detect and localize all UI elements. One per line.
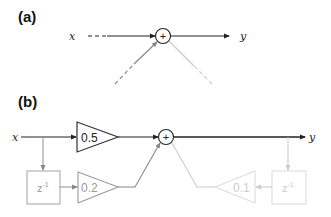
panel-b: (b) x 0.5 + y z-1 0.2 xyxy=(12,93,316,204)
panel-a-feedforward-dashed xyxy=(115,64,134,84)
panel-a-feedback-dashed xyxy=(194,66,212,84)
gain-b1: 0.2 xyxy=(78,172,118,203)
panel-a: (a) x + y xyxy=(18,8,247,84)
gain-a1: 0.1 xyxy=(215,171,255,203)
input-delay-block: z-1 xyxy=(27,171,60,204)
panel-b-sum-symbol: + xyxy=(163,131,169,143)
output-delay-block: z-1 xyxy=(272,171,306,204)
panel-a-feedback-line xyxy=(169,41,194,66)
panel-a-label: (a) xyxy=(18,8,36,25)
gain-b0-value: 0.5 xyxy=(81,131,98,145)
panel-b-a1-to-sum xyxy=(172,143,215,187)
gain-b0: 0.5 xyxy=(77,122,118,152)
panel-a-sum-node: + xyxy=(156,29,171,44)
panel-b-output-y: y xyxy=(308,131,316,144)
panel-b-label: (b) xyxy=(18,93,37,110)
panel-a-sum-symbol: + xyxy=(160,30,166,42)
panel-a-output-y: y xyxy=(239,30,247,43)
gain-a1-value: 0.1 xyxy=(233,181,250,195)
panel-b-sum-node: + xyxy=(159,130,174,145)
panel-b-b1-to-sum xyxy=(118,143,160,187)
panel-b-input-x: x xyxy=(12,131,19,144)
filter-diagram: (a) x + y (b) x 0.5 xyxy=(0,0,331,217)
gain-b1-value: 0.2 xyxy=(81,181,98,195)
panel-a-input-x: x xyxy=(69,30,76,43)
panel-a-feedforward-arrow xyxy=(134,42,157,64)
